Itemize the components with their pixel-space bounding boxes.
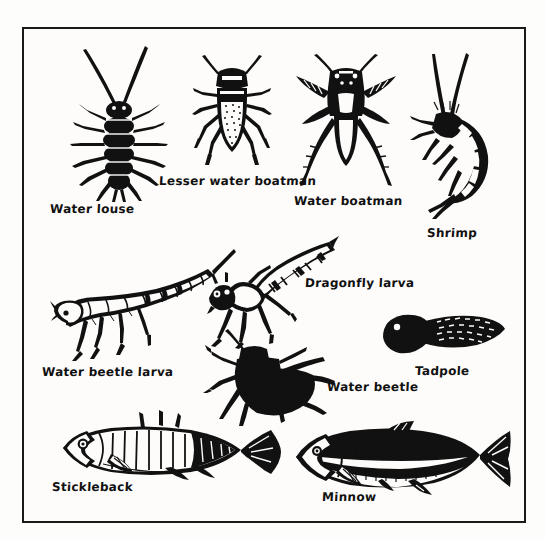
label-shrimp: Shrimp <box>427 226 478 240</box>
label-dragonfly-larva: Dragonfly larva <box>305 276 415 290</box>
lesser-water-boatman-illustration <box>184 52 280 170</box>
label-water-beetle-larva: Water beetle larva <box>42 365 174 379</box>
label-water-louse: Water louse <box>50 202 135 216</box>
label-lesser-water-boatman: Lesser water boatman <box>159 174 317 188</box>
water-boatman-illustration <box>294 54 398 188</box>
specimen-tadpole <box>377 307 507 367</box>
label-water-boatman: Water boatman <box>294 194 403 208</box>
label-water-beetle: Water beetle <box>327 380 419 394</box>
label-tadpole: Tadpole <box>415 364 470 378</box>
label-stickleback: Stickleback <box>52 480 134 494</box>
pond-life-chart: Water louse <box>0 0 546 540</box>
specimen-water-boatman <box>294 54 398 188</box>
specimen-lesser-water-boatman <box>184 52 280 170</box>
shrimp-illustration <box>406 52 518 220</box>
label-minnow: Minnow <box>322 490 377 504</box>
specimen-shrimp <box>406 52 518 220</box>
tadpole-illustration <box>377 307 507 367</box>
chart-frame: Water louse <box>22 27 526 523</box>
